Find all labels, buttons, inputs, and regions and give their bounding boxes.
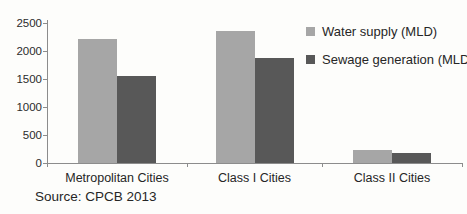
x-axis-tick-mark	[47, 163, 48, 167]
legend-swatch-icon	[306, 27, 315, 36]
y-axis-line	[47, 20, 48, 163]
y-axis-tick-label: 2500	[10, 16, 42, 30]
y-axis-tick-label: 0	[10, 156, 42, 170]
x-axis-tick-mark	[462, 163, 463, 167]
y-axis-tick-label: 1500	[10, 72, 42, 86]
x-axis-category-label: Class II Cities	[317, 171, 467, 185]
legend-label: Sewage generation (MLD)	[322, 52, 467, 67]
legend-label: Water supply (MLD)	[322, 24, 437, 39]
y-axis-tick-label: 1000	[10, 100, 42, 114]
legend-swatch-icon	[306, 55, 315, 64]
source-note: Source: CPCB 2013	[35, 189, 157, 204]
x-axis-category-label: Metropolitan Cities	[42, 171, 192, 185]
bar-water-supply-mld	[78, 39, 117, 163]
x-axis-tick-mark	[322, 163, 323, 167]
bar-sewage-generation-mld	[255, 58, 294, 163]
y-axis-tick-label: 500	[10, 128, 42, 142]
x-axis-tick-mark	[187, 163, 188, 167]
bar-sewage-generation-mld	[117, 76, 156, 163]
bar-chart: Water supply (MLD)Sewage generation (MLD…	[0, 0, 467, 214]
bar-water-supply-mld	[216, 31, 255, 163]
x-axis-line	[47, 163, 462, 164]
bar-water-supply-mld	[353, 150, 392, 163]
legend-item: Sewage generation (MLD)	[306, 52, 467, 67]
chart-legend: Water supply (MLD)Sewage generation (MLD…	[306, 24, 467, 80]
x-axis-category-label: Class I Cities	[180, 171, 330, 185]
legend-item: Water supply (MLD)	[306, 24, 467, 39]
bar-sewage-generation-mld	[392, 153, 431, 163]
y-axis-tick-label: 2000	[10, 44, 42, 58]
